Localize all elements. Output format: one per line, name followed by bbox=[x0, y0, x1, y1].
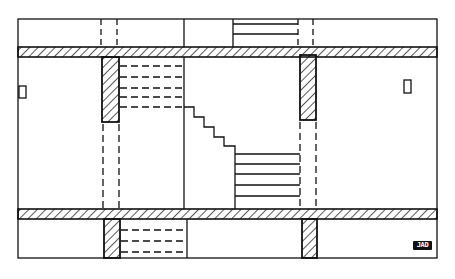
lower-floor-slab bbox=[18, 209, 437, 219]
section-drawing bbox=[0, 0, 455, 279]
left-opening bbox=[19, 86, 26, 98]
stair-profile bbox=[184, 107, 235, 209]
lower-right-column bbox=[302, 219, 317, 258]
right-opening bbox=[404, 80, 411, 93]
left-column bbox=[102, 57, 119, 122]
right-column bbox=[300, 55, 316, 120]
dashed-steps bbox=[120, 66, 182, 107]
lower-left-column bbox=[104, 219, 120, 258]
upper-floor-slab bbox=[18, 47, 437, 57]
signature-stamp: JAD bbox=[413, 241, 432, 250]
